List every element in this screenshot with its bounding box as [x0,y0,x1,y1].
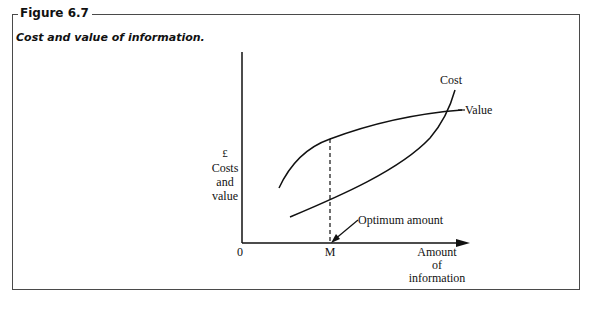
y-axis-currency: £ [222,147,228,159]
cost-curve [290,90,455,217]
x-axis-label-line1: Amount [417,245,457,259]
cost-value-diagram: Cost Value £ Costs and value 0 M Amount … [0,0,602,309]
x-axis-arrowhead-icon [456,239,470,247]
x-marker-m-label: M [325,245,336,259]
x-axis-label-line3: information [409,271,466,285]
value-curve [279,110,462,188]
y-axis-label-line2: and [216,175,233,189]
origin-label: 0 [237,245,243,259]
optimum-amount-label: Optimum amount [358,213,444,227]
x-axis-label-line2: of [432,258,442,272]
cost-curve-label: Cost [440,73,463,87]
y-axis-label-line1: Costs [212,161,239,175]
value-curve-label: Value [465,103,492,117]
y-axis-label-line3: value [212,189,238,203]
